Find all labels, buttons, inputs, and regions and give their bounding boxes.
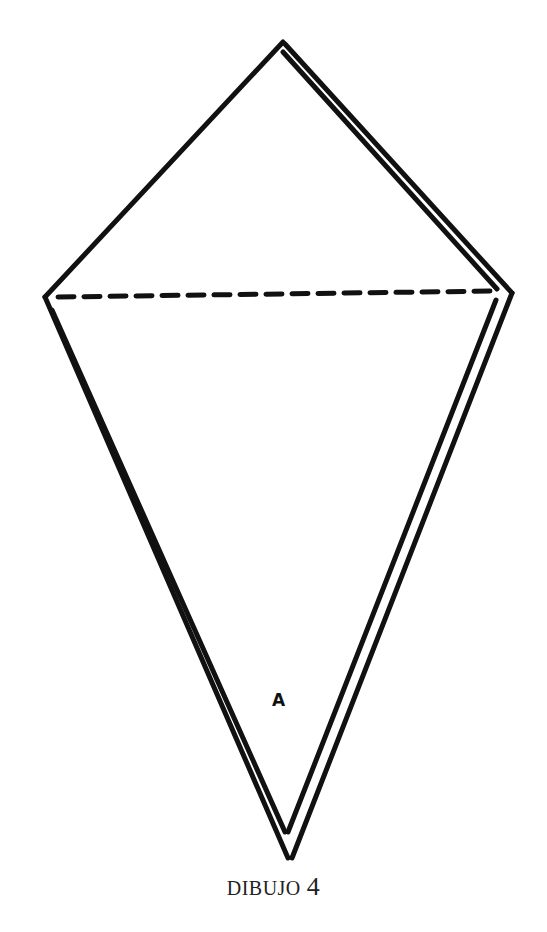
edge-top-left <box>45 42 283 297</box>
caption-word: DIBUJO <box>227 877 301 899</box>
point-label-a: A <box>272 690 285 710</box>
edge-top-right-outer <box>285 44 512 293</box>
fold-line-dashed <box>58 291 494 297</box>
edge-bottom-left-inner <box>52 310 285 832</box>
edge-bottom-right-outer <box>292 293 512 858</box>
kite-fold-diagram <box>0 0 547 932</box>
caption-number: 4 <box>307 872 321 901</box>
edge-bottom-right-inner <box>288 300 496 832</box>
edge-top-right-inner <box>283 52 497 289</box>
figure-caption: DIBUJO 4 <box>0 872 547 902</box>
